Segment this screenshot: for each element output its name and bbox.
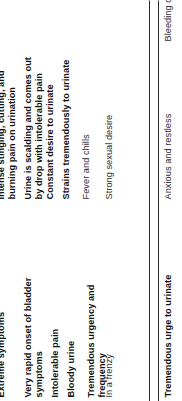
primary-entry-in-a-frenzy: In a frenzy bbox=[104, 265, 115, 397]
page-body: Extreme symptoms Very rapid onset of bla… bbox=[0, 0, 182, 401]
secondary-entry-fever-chills: Fever and chills bbox=[81, 49, 92, 199]
table-rule-lower bbox=[158, 0, 159, 401]
primary-entry-extreme-symptoms: Extreme symptoms bbox=[0, 265, 7, 397]
primary-entry-intolerable-pain: Intolerable pain bbox=[50, 265, 61, 397]
secondary-entry-sexual-desire: Strong sexual desire bbox=[104, 49, 115, 199]
footer-entry-tremendous-urge: Tremendous urge to urinate bbox=[163, 247, 174, 397]
footer-entry-urethra-bleeding: Bleeding of urethra after urination bbox=[163, 0, 174, 41]
secondary-entry-scalding-urine: Urine is scalding and comes out by drop … bbox=[23, 49, 45, 199]
primary-entry-rapid-onset: Very rapid onset of bladder symptoms bbox=[23, 265, 45, 397]
rotated-page-stage: Extreme symptoms Very rapid onset of bla… bbox=[0, 0, 182, 401]
secondary-entry-strains-to-urinate: Strains tremendously to urinate bbox=[61, 49, 72, 199]
table-rule-upper bbox=[149, 0, 150, 401]
footer-entry-anxious-restless: Anxious and restless bbox=[163, 39, 174, 199]
primary-entry-bloody-urine: Bloody urine bbox=[66, 265, 77, 397]
secondary-entry-stinging-pain: Intense stinging, cutting, and burning p… bbox=[0, 49, 18, 199]
secondary-entry-constant-desire: Constant desire to urinate bbox=[45, 49, 56, 199]
